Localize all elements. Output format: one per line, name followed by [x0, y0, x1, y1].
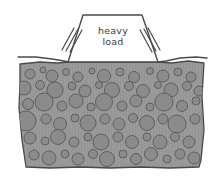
- aggregate-particle: [119, 150, 127, 158]
- aggregate-particle: [183, 136, 195, 148]
- aggregate-particle: [192, 97, 200, 105]
- aggregate-particle: [131, 154, 142, 165]
- aggregate-particle: [41, 137, 49, 145]
- aggregate-particle: [29, 150, 39, 160]
- aggregate-particle: [35, 93, 53, 111]
- aggregate-particle: [155, 82, 162, 89]
- aggregate-particle: [36, 81, 45, 90]
- aggregate-particle: [89, 68, 95, 74]
- aggregate-particle: [186, 72, 196, 82]
- aggregate-particle: [175, 149, 185, 159]
- aggregate-particle: [113, 118, 125, 130]
- aggregate-particle: [100, 152, 115, 167]
- aggregate-particle: [61, 150, 69, 158]
- aggregate-particle: [147, 68, 154, 75]
- aggregate-particle: [89, 150, 98, 159]
- aggregate-particle: [69, 137, 79, 147]
- aggregate-particle: [158, 114, 168, 124]
- aggregate-particle: [68, 82, 76, 90]
- aggregate-particle: [113, 132, 123, 142]
- aggregate-particle: [63, 69, 70, 76]
- heavy-load-label-line2: load: [102, 36, 123, 47]
- aggregate-particle: [117, 101, 127, 111]
- aggregate-particle: [98, 70, 111, 83]
- aggregate-particle: [79, 85, 91, 97]
- aggregate-particle: [171, 133, 180, 142]
- aggregate-particle: [24, 132, 36, 144]
- aggregate-particle: [72, 153, 84, 165]
- aggregate-particle: [71, 114, 79, 122]
- aggregate-particle: [190, 114, 200, 124]
- aggregate-particle: [129, 114, 138, 123]
- aggregate-particle: [51, 130, 66, 145]
- aggregate-particle: [46, 70, 58, 82]
- aggregate-particle: [96, 94, 113, 111]
- aggregate-particle: [174, 68, 182, 76]
- aggregate-particle: [100, 114, 110, 124]
- aggregate-particle: [125, 82, 134, 91]
- aggregate-particle: [84, 133, 92, 141]
- aggregate-particle: [177, 101, 188, 112]
- aggregate-particle: [73, 72, 83, 82]
- aggregate-particle: [69, 94, 83, 108]
- aggregate-particle: [163, 155, 171, 163]
- soil-mechanics-sketch: heavy load: [0, 0, 222, 180]
- aggregate-particle: [157, 70, 169, 82]
- aggregate-particle: [126, 136, 139, 149]
- aggregate-particle: [143, 133, 151, 141]
- aggregate-particle: [140, 116, 155, 131]
- aggregate-particle: [96, 82, 103, 89]
- aggregate-particle: [25, 69, 35, 79]
- aggregate-particle: [188, 152, 200, 164]
- aggregate-particle: [153, 135, 167, 149]
- aggregate-particle: [40, 67, 46, 73]
- aggregate-particle: [54, 118, 67, 131]
- aggregate-particle: [168, 115, 186, 133]
- aggregate-particle: [93, 134, 109, 150]
- aggregate-particle: [129, 72, 140, 83]
- aggregate-particle: [57, 101, 67, 111]
- aggregate-particle: [116, 68, 124, 76]
- aggregate-particle: [145, 148, 158, 161]
- aggregate-particle: [146, 103, 154, 111]
- aggregate-particle: [23, 99, 34, 110]
- aggregate-particle: [80, 115, 96, 131]
- aggregate-particle: [41, 114, 51, 124]
- aggregate-particle: [42, 151, 56, 165]
- aggregate-particle: [155, 93, 173, 111]
- soil-aggregate-mass: [16, 61, 204, 168]
- aggregate-particle: [130, 95, 142, 107]
- heavy-load-label-line1: heavy: [98, 25, 128, 36]
- aggregate-particle: [183, 82, 192, 91]
- aggregate-particle: [87, 103, 95, 111]
